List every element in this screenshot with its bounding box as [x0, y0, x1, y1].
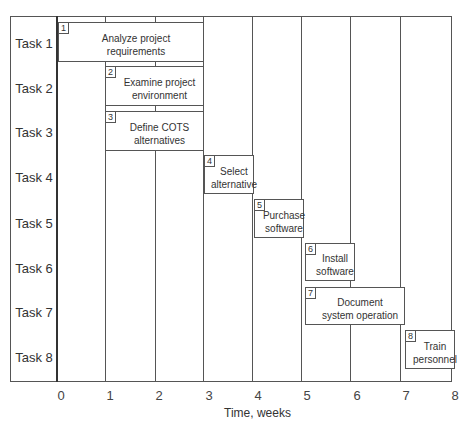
gridline-7 [400, 16, 401, 382]
task-bar-6: 6 Install software [305, 243, 355, 281]
task-label: Task 3 [10, 125, 58, 140]
task-bar-8: 8 Train personnel [405, 330, 455, 369]
task-bar-1: 1 Analyze project requirements [58, 22, 204, 62]
task-number: 7 [305, 287, 316, 299]
task-label-column [10, 16, 58, 382]
task-number: 3 [105, 111, 116, 123]
task-number: 8 [405, 330, 416, 342]
task-label: Task 2 [10, 81, 58, 96]
task-bar-label: Analyze project requirements [73, 32, 199, 58]
task-label: Task 5 [10, 216, 58, 231]
task-label: Task 4 [10, 170, 58, 185]
task-bar-7: 7 Document system operation [305, 287, 405, 325]
task-bar-label: Define COTS alternatives [120, 121, 199, 147]
task-label: Task 1 [10, 36, 58, 51]
task-bar-4: 4 Select alternative [204, 155, 254, 194]
task-bar-label: Examine project environment [120, 76, 199, 102]
gridline-6 [350, 16, 351, 382]
x-tick: 0 [51, 388, 71, 403]
task-label: Task 7 [10, 305, 58, 320]
x-tick: 2 [149, 388, 169, 403]
x-tick: 5 [297, 388, 317, 403]
task-number: 1 [58, 22, 69, 34]
task-bar-label: Train personnel [413, 340, 457, 366]
chart-frame [10, 16, 452, 382]
gridline-4 [252, 16, 253, 382]
x-tick: 4 [248, 388, 268, 403]
task-number: 6 [305, 243, 316, 255]
task-bar-5: 5 Purchase software [254, 199, 304, 238]
x-tick: 8 [445, 388, 465, 403]
task-bar-label: Document system operation [320, 296, 400, 322]
x-axis-label: Time, weeks [224, 406, 291, 420]
x-tick: 3 [199, 388, 219, 403]
task-number: 5 [254, 199, 265, 211]
task-bar-label: Purchase software [263, 209, 305, 235]
x-tick: 1 [100, 388, 120, 403]
x-tick: 7 [396, 388, 416, 403]
task-bar-label: Select alternative [211, 165, 257, 191]
task-number: 2 [105, 66, 116, 78]
task-bar-3: 3 Define COTS alternatives [105, 111, 204, 151]
task-number: 4 [204, 155, 215, 167]
x-tick: 6 [347, 388, 367, 403]
task-label: Task 6 [10, 261, 58, 276]
task-bar-2: 2 Examine project environment [105, 66, 204, 106]
task-bar-label: Install software [316, 252, 354, 278]
task-label: Task 8 [10, 350, 58, 365]
